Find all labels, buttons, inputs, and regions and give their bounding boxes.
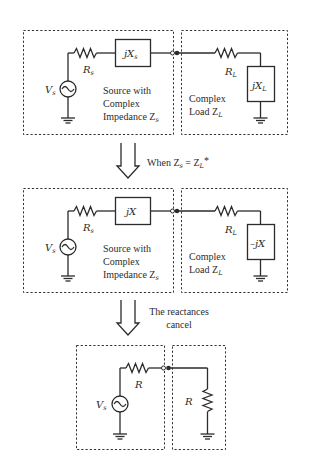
load-caption-line1: Complex (189, 251, 226, 262)
source-caption-line3: Impedance Zs (103, 111, 159, 124)
source-voltage-label: Vs (45, 242, 56, 255)
ac-voltage-source-icon (112, 368, 128, 434)
ground-icon (201, 434, 215, 439)
load-caption-line1: Complex (189, 93, 226, 104)
source-resistor-label: Rs (82, 64, 95, 77)
terminal-icon (171, 209, 175, 213)
load-resistor-icon (215, 49, 238, 58)
panel-1-complex-impedances: Vs Rs jXs Source with Complex Impedance … (24, 31, 288, 135)
source-caption-line3: Impedance Zs (103, 269, 159, 282)
source-resistor-icon (74, 207, 97, 216)
source-resistor-label: Rs (82, 222, 95, 235)
load-resistor-label: R (184, 396, 193, 407)
load-caption-line2: Load ZL (189, 106, 222, 119)
source-caption-line1: Source with (103, 243, 151, 254)
ground-icon (61, 276, 75, 281)
load-resistor-label: RL (224, 224, 237, 237)
source-caption-line1: Source with (103, 85, 151, 96)
down-arrow-icon (117, 143, 139, 178)
arrow-2: The reactances cancel (117, 300, 209, 335)
load-resistor-icon (203, 389, 212, 412)
ground-icon (254, 118, 268, 123)
arrow-1-condition-text: When Zs = ZL* (147, 155, 209, 170)
ac-voltage-source-icon (60, 211, 76, 276)
ac-voltage-source-icon (60, 53, 76, 118)
impedance-matching-diagram: Vs Rs jXs Source with Complex Impedance … (0, 0, 309, 472)
source-resistor-label: R (134, 379, 143, 390)
ground-icon (113, 434, 127, 439)
panel-3-matched-resistive: Vs R R (77, 346, 226, 450)
ground-icon (254, 276, 268, 281)
source-caption-line2: Complex (103, 256, 140, 267)
load-resistor-icon (215, 207, 238, 216)
arrow-2-text-line2: cancel (166, 319, 192, 330)
source-reactance-label: jX (124, 206, 137, 217)
arrow-2-text-line1: The reactances (149, 306, 209, 317)
source-caption-line2: Complex (103, 98, 140, 109)
panel-2-conjugate-match: Vs Rs jX Source with Complex Impedance Z… (24, 189, 288, 293)
source-resistor-icon (126, 364, 149, 373)
source-voltage-label: Vs (45, 84, 56, 97)
terminal-icon (171, 51, 175, 55)
load-reactance-label: –jX (250, 238, 266, 249)
ground-icon (61, 118, 75, 123)
load-caption-line2: Load ZL (189, 264, 222, 277)
down-arrow-icon (117, 300, 139, 335)
load-boundary-box (173, 346, 226, 450)
source-resistor-icon (74, 49, 97, 58)
terminal-icon (162, 366, 166, 370)
arrow-1: When Zs = ZL* (117, 143, 209, 178)
load-resistor-label: RL (224, 66, 237, 79)
source-voltage-label: Vs (96, 399, 107, 412)
